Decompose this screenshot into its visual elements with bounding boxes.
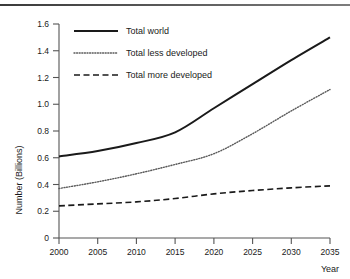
legend-label-total-world: Total world [126,26,169,36]
chart-svg: 1.6 1.4 1.2 1.0 0.8 0.6 0.4 0.2 0 [0,0,350,279]
legend-label-total-more-developed: Total more developed [126,70,212,80]
series-lines [59,37,330,206]
y-tick-label: 1.2 [37,73,49,83]
x-tick-label: 2015 [166,247,185,257]
y-tick-label: 0.6 [37,153,49,163]
y-axis-ticks [53,24,59,238]
y-axis-title: Number (Billions) [14,145,24,214]
y-tick-label: 1.6 [37,19,49,29]
y-tick-label: 0 [44,233,49,243]
y-tick-label: 0.8 [37,126,49,136]
x-tick-label: 2010 [127,247,146,257]
x-tick-label: 2005 [88,247,107,257]
legend-label-total-less-developed: Total less developed [126,48,208,58]
y-tick-label: 1.0 [37,99,49,109]
x-axis-tick-labels: 2000 2005 2010 2015 2020 2025 2030 2035 [50,247,340,257]
line-chart: 1.6 1.4 1.2 1.0 0.8 0.6 0.4 0.2 0 [0,0,350,279]
y-tick-label: 0.4 [37,180,49,190]
y-axis-tick-labels: 1.6 1.4 1.2 1.0 0.8 0.6 0.4 0.2 0 [37,19,49,243]
y-tick-label: 0.2 [37,206,49,216]
x-tick-label: 2035 [321,247,340,257]
x-axis-ticks [59,238,330,244]
x-tick-label: 2025 [243,247,262,257]
series-line-total-more-developed [59,186,330,206]
figure-page: 1.6 1.4 1.2 1.0 0.8 0.6 0.4 0.2 0 [0,0,350,279]
x-tick-label: 2030 [282,247,301,257]
legend: Total world Total less developed Total m… [74,26,212,80]
series-line-total-less-developed [59,90,330,189]
x-tick-label: 2000 [50,247,69,257]
y-tick-label: 1.4 [37,46,49,56]
x-tick-label: 2020 [204,247,223,257]
x-axis-title: Year [321,264,339,274]
